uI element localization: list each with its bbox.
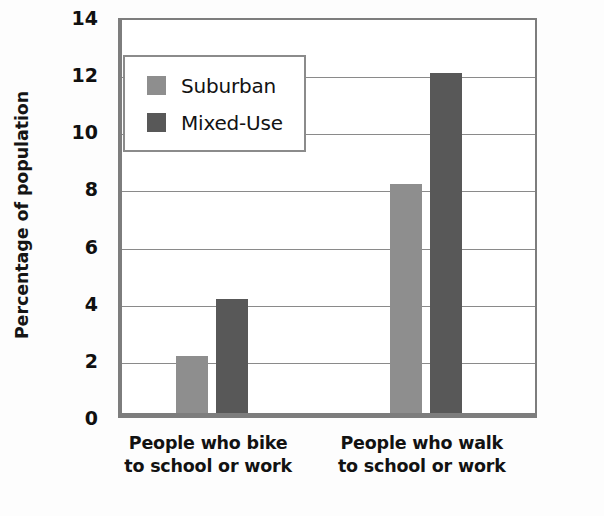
gridline	[122, 249, 535, 250]
y-axis-tick-label: 0	[85, 407, 98, 429]
x-axis-category-label: People who biketo school or work	[103, 432, 313, 478]
x-axis-category-labels: People who biketo school or workPeople w…	[118, 432, 537, 502]
bar-mixed-use-2	[430, 73, 462, 413]
y-axis-title-text: Percentage of population	[12, 91, 32, 339]
y-axis-tick-label: 2	[85, 350, 98, 372]
y-axis-tick-label: 8	[85, 178, 98, 200]
x-axis-category-label-line: to school or work	[317, 455, 527, 478]
x-axis-category-label: People who walkto school or work	[317, 432, 527, 478]
x-axis-category-label-line: People who bike	[103, 432, 313, 455]
legend-item: Suburban	[147, 67, 304, 104]
x-axis-category-label-line: to school or work	[103, 455, 313, 478]
bar-mixed-use-1	[216, 299, 248, 413]
y-axis-tick-label: 14	[72, 7, 98, 29]
legend-swatch-icon	[147, 76, 166, 95]
bar-chart: Percentage of population 02468101214 Sub…	[0, 0, 604, 516]
y-axis-tick-label: 10	[72, 121, 98, 143]
gridline	[122, 306, 535, 307]
y-axis-tick-label: 4	[85, 293, 98, 315]
legend-swatch-icon	[147, 113, 166, 132]
y-axis-tick-label: 12	[72, 64, 98, 86]
bar-suburban-1	[176, 356, 208, 413]
bar-suburban-2	[390, 184, 422, 413]
legend-label: Mixed-Use	[181, 111, 283, 135]
y-axis-tick-labels: 02468101214	[44, 0, 108, 516]
legend: SuburbanMixed-Use	[123, 55, 306, 152]
y-axis-title: Percentage of population	[0, 0, 44, 430]
x-axis-category-label-line: People who walk	[317, 432, 527, 455]
legend-label: Suburban	[181, 74, 276, 98]
y-axis-tick-label: 6	[85, 236, 98, 258]
legend-item: Mixed-Use	[147, 104, 304, 141]
gridline	[122, 191, 535, 192]
